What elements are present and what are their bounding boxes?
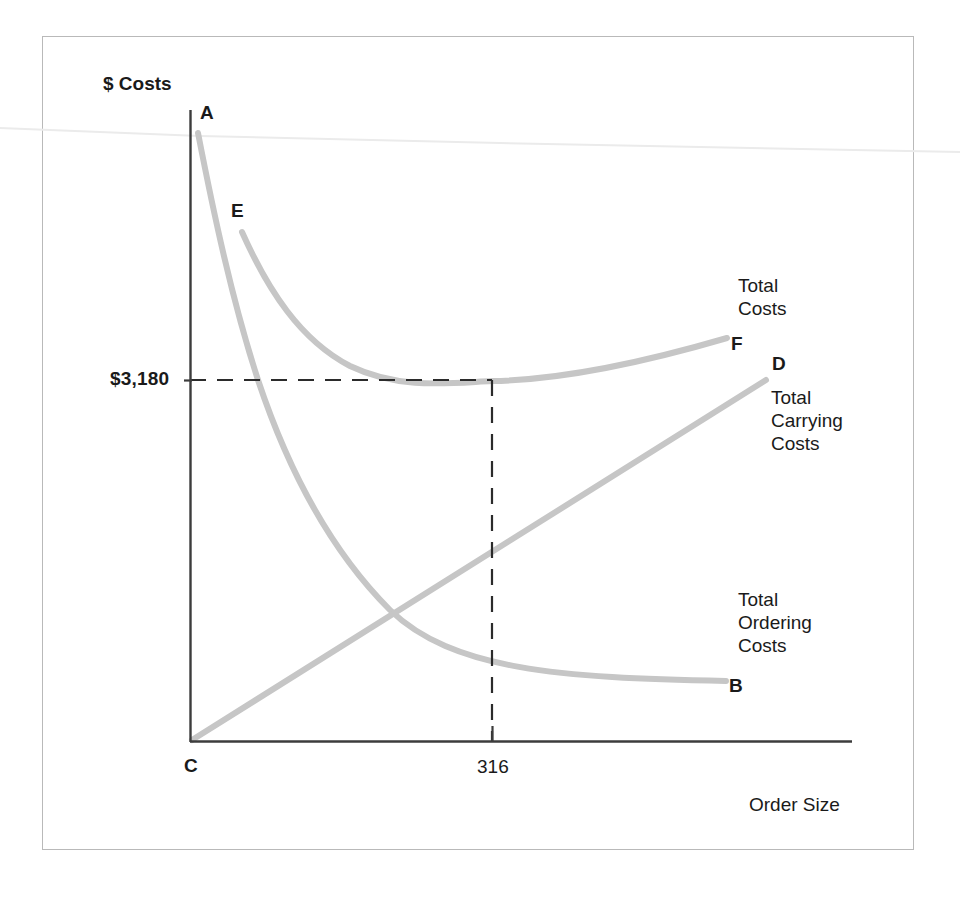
point-label-d: D (772, 352, 786, 375)
point-label-b: B (729, 674, 743, 697)
series-total-costs-curve (242, 232, 727, 384)
y-axis-title: $ Costs (103, 72, 172, 95)
figure-page: $ Costs Order Size $3,180 316 A E F D B … (0, 0, 960, 900)
series-total-ordering-costs-curve (198, 133, 726, 681)
point-label-a: A (200, 101, 214, 124)
x-axis-title: Order Size (749, 793, 840, 816)
point-label-c: C (184, 754, 198, 777)
series-label-total-carrying-costs: Total Carrying Costs (771, 386, 843, 456)
y-axis-tick-label-3180: $3,180 (110, 367, 169, 390)
x-axis-tick-label-316: 316 (477, 755, 509, 778)
series-label-total-ordering-costs: Total Ordering Costs (738, 588, 812, 658)
series-label-total-costs: Total Costs (738, 274, 787, 320)
point-label-e: E (231, 199, 244, 222)
point-label-f: F (731, 332, 743, 355)
